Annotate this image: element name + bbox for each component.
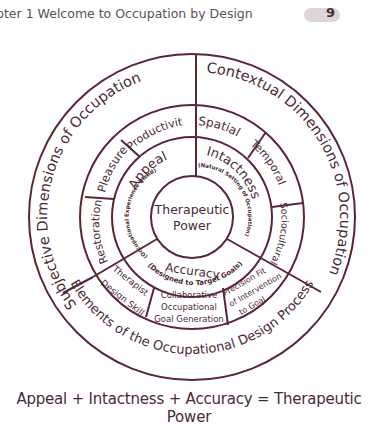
productivity-label: Productivity <box>0 0 184 153</box>
outer-circle <box>29 54 355 380</box>
collaborative-label-3: Goal Generation <box>154 314 223 324</box>
restoration-label: Restoration <box>89 198 111 266</box>
pleasure-label: Pleasure <box>94 143 130 194</box>
spatial-label: Spatial <box>198 114 243 140</box>
collaborative-label-2: Occupational <box>161 302 217 312</box>
center-label-line1: Therapeutic <box>154 202 230 217</box>
formula-caption: Appeal + Intactness + Accuracy = Therape… <box>0 390 378 426</box>
appeal-label: Appeal <box>125 148 169 191</box>
center-label-line2: Power <box>173 218 212 233</box>
therapeutic-power-wheel: Therapeutic Power Subjective Dimensions … <box>0 0 378 390</box>
collaborative-label-1: Collaborative <box>161 290 217 300</box>
core-circle <box>151 176 233 258</box>
